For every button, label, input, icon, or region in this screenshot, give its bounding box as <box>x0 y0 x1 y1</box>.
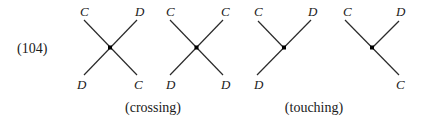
vertex-dot <box>195 46 199 50</box>
label-top-left: C <box>254 4 263 19</box>
diagram-crossing-2: C C D D <box>165 4 231 92</box>
label-bottom-right: D <box>220 77 231 92</box>
diagram-touching-1: C D D <box>253 4 318 92</box>
strand-line <box>258 21 284 48</box>
strand-line <box>372 21 399 48</box>
label-top-right: D <box>395 4 406 19</box>
diagram-crossing-1: C D D C <box>76 4 145 92</box>
label-bottom-right: C <box>134 77 143 92</box>
diagram-touching-2: C D C <box>343 4 406 92</box>
caption-touching: (touching) <box>285 100 344 116</box>
label-top-right: D <box>134 4 145 19</box>
vertex-dot <box>370 46 374 50</box>
equation-number: (104) <box>17 41 48 57</box>
vertex-dot <box>108 46 112 50</box>
vertex-dot <box>282 46 286 50</box>
label-bottom-left: D <box>165 77 176 92</box>
label-bottom-left: D <box>76 77 87 92</box>
label-top-left: C <box>80 4 89 19</box>
label-bottom-left: D <box>253 77 264 92</box>
label-top-right: D <box>307 4 318 19</box>
caption-crossing: (crossing) <box>125 100 181 116</box>
label-bottom-right: C <box>396 77 405 92</box>
label-top-left: C <box>343 4 352 19</box>
label-top-left: C <box>166 4 175 19</box>
figure-104: (104) C D D C C C D D C D D C D C (cro <box>0 0 421 122</box>
label-top-right: C <box>221 4 230 19</box>
